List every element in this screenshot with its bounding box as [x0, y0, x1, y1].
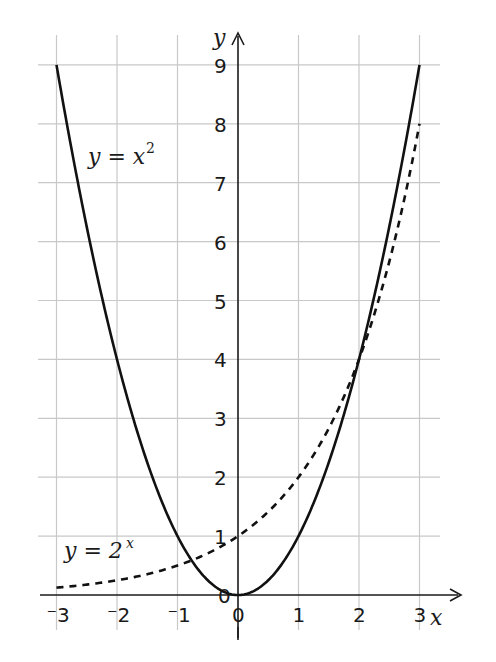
svg-text:2: 2: [146, 140, 155, 156]
x-tick-labels: ⁻3⁻2⁻10123: [47, 603, 427, 638]
x-tick-label: 2: [353, 603, 366, 627]
y-tick-label: 9: [214, 54, 227, 78]
y-tick-label: 3: [214, 407, 227, 431]
x-tick-label: ⁻3: [47, 603, 70, 627]
svg-text:x: x: [126, 535, 134, 551]
y-axis-label: y: [212, 25, 226, 50]
y-tick-label: 4: [214, 348, 227, 372]
y-tick-labels: 0123456789: [214, 54, 231, 608]
x-tick-label: ⁻1: [168, 603, 191, 627]
x-tick-label: 0: [232, 603, 245, 627]
label-2-pow-x: y = 2 x: [63, 535, 134, 563]
y-tick-label: 2: [214, 466, 227, 490]
x-tick-label: ⁻2: [107, 603, 130, 627]
svg-text:y = 2: y = 2: [63, 538, 123, 563]
label-x-squared: y = x 2: [87, 140, 155, 169]
y-tick-label: 0: [218, 584, 231, 608]
function-graph: ⁻3⁻2⁻10123 0123456789 y x y = x 2 y = 2 …: [0, 0, 496, 662]
svg-text:y = x: y = x: [87, 144, 146, 169]
x-tick-label: 1: [293, 603, 306, 627]
x-axis-label: x: [430, 605, 443, 630]
y-tick-label: 5: [214, 290, 227, 314]
y-tick-label: 7: [214, 172, 227, 196]
y-tick-label: 8: [214, 113, 227, 137]
y-tick-label: 6: [214, 231, 227, 255]
x-tick-label: 3: [414, 603, 427, 627]
